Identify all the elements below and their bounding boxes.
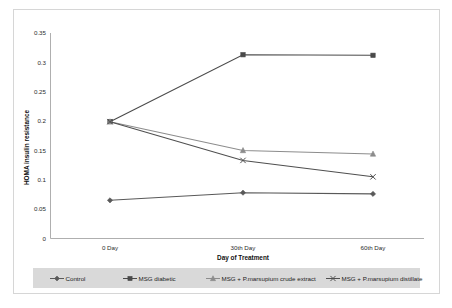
data-point	[241, 53, 245, 57]
series-1	[107, 190, 375, 203]
y-tick-label: 0.1	[37, 176, 46, 183]
legend-item-label: Control	[66, 275, 86, 282]
data-point	[240, 190, 245, 195]
y-axis-title: HOMA insulin resistance	[23, 110, 30, 185]
x-tick-labels: 0 Day 30th Day 60th Day	[102, 244, 386, 251]
series-4	[107, 119, 375, 180]
data-point	[370, 191, 375, 196]
x-tick-label: 60th Day	[361, 244, 387, 251]
y-tick-label: 0.35	[34, 29, 47, 36]
data-point	[371, 53, 375, 57]
y-tick-label: 0.05	[34, 205, 47, 212]
y-tick-labels: 0.35 0.3 0.25 0.2 0.15 0.1 0.05 0	[34, 29, 47, 242]
legend-item-4[interactable]: MSG + P.marsupium distillate	[326, 275, 423, 282]
figure-container: 0.35 0.3 0.25 0.2 0.15 0.1 0.05 0 HOMA i…	[0, 0, 452, 308]
x-tick-label: 30th Day	[231, 244, 257, 251]
legend-item-label: MSG + P.marsupium crude extract	[222, 275, 317, 282]
legend-item-label: MSG + P.marsupium distillate	[342, 275, 423, 282]
series-line	[110, 55, 373, 122]
chart-canvas: 0.35 0.3 0.25 0.2 0.15 0.1 0.05 0 HOMA i…	[0, 0, 452, 308]
series-layer	[107, 53, 375, 203]
series-2	[108, 53, 375, 124]
series-line	[110, 122, 373, 154]
series-3	[107, 119, 375, 156]
legend-item-3[interactable]: MSG + P.marsupium crude extract	[206, 275, 316, 282]
y-tick-label: 0.25	[34, 88, 47, 95]
y-tick-label: 0	[43, 235, 47, 242]
legend-marker-icon	[128, 276, 132, 280]
data-point	[107, 198, 112, 203]
x-tick-label: 0 Day	[102, 244, 119, 251]
x-axis-title: Day of Treatment	[217, 254, 270, 262]
y-tick-label: 0.15	[34, 147, 47, 154]
y-tick-label: 0.3	[37, 59, 46, 66]
legend-item-label: MSG diabetic	[139, 275, 176, 282]
y-tick-label: 0.2	[37, 117, 46, 124]
